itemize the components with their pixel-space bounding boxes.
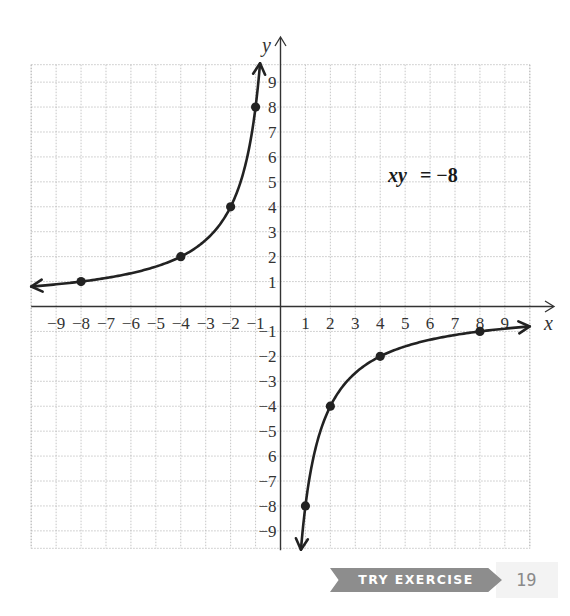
- x-tick-label: −2: [222, 314, 240, 333]
- data-point: [76, 277, 85, 286]
- data-point: [251, 102, 260, 111]
- exercise-number[interactable]: 19: [516, 568, 536, 592]
- data-point: [475, 327, 484, 336]
- hyperbola-chart: −9−8−7−6−5−4−3−2−1123456789987654321−1−2…: [0, 0, 570, 560]
- y-tick-label: 4: [268, 198, 277, 217]
- x-tick-label: −9: [47, 314, 65, 333]
- x-tick-label: −6: [122, 314, 140, 333]
- y-tick-label: −5: [258, 422, 276, 441]
- x-tick-label: 7: [451, 314, 460, 333]
- y-tick-label: 6: [268, 447, 277, 466]
- y-tick-label: 2: [268, 248, 277, 267]
- equation-rhs: = −8: [420, 164, 458, 186]
- x-tick-label: −8: [72, 314, 90, 333]
- y-tick-label: −2: [258, 347, 276, 366]
- x-tick-label: −5: [147, 314, 165, 333]
- y-tick-label: 6: [268, 148, 277, 167]
- y-tick-label: 5: [268, 173, 277, 192]
- x-tick-label: 2: [326, 314, 335, 333]
- y-axis-label: y: [260, 34, 271, 57]
- try-exercise-footer: TRY EXERCISE 19: [320, 562, 570, 598]
- y-tick-label: −8: [258, 497, 276, 516]
- x-tick-label: −4: [172, 314, 191, 333]
- y-tick-label: −1: [258, 322, 276, 341]
- x-tick-label: 1: [301, 314, 310, 333]
- y-tick-label: 1: [268, 273, 277, 292]
- y-tick-label: 9: [268, 73, 277, 92]
- curve-branch: [31, 63, 260, 286]
- y-tick-label: −7: [258, 472, 277, 491]
- y-tick-label: 7: [268, 123, 277, 142]
- y-tick-label: −9: [258, 522, 276, 541]
- try-exercise-badge[interactable]: TRY EXERCISE: [330, 568, 502, 592]
- x-tick-label: 5: [401, 314, 410, 333]
- data-point: [301, 501, 310, 510]
- x-axis-label: x: [543, 312, 553, 334]
- y-tick-label: 8: [268, 98, 277, 117]
- y-tick-label: 3: [268, 223, 277, 242]
- equation-lhs: xy: [387, 164, 407, 187]
- x-tick-label: 6: [426, 314, 435, 333]
- curve-branch: [301, 326, 530, 549]
- x-tick-label: 3: [351, 314, 360, 333]
- data-point: [176, 252, 185, 261]
- y-tick-label: −4: [258, 397, 277, 416]
- data-point: [226, 202, 235, 211]
- data-point: [326, 402, 335, 411]
- x-tick-label: −3: [197, 314, 215, 333]
- equation-label: xy = −8: [387, 164, 458, 187]
- y-tick-label: −3: [258, 372, 276, 391]
- data-point: [376, 352, 385, 361]
- x-tick-label: 4: [376, 314, 385, 333]
- x-tick-label: −7: [97, 314, 116, 333]
- axes: [31, 37, 554, 550]
